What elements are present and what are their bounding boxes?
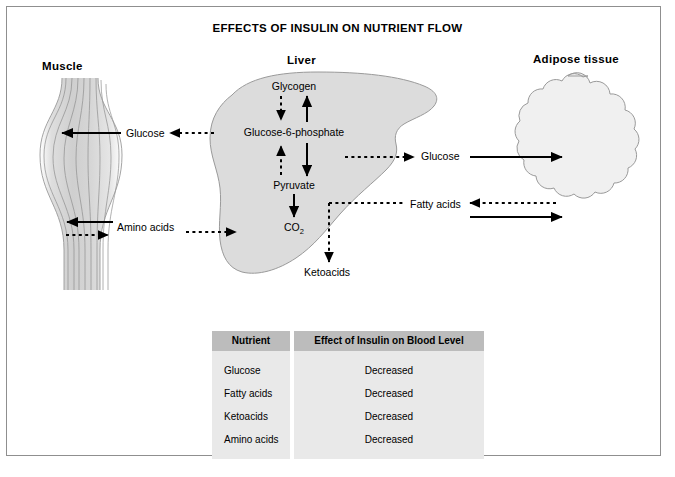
column-header-nutrient: Nutrient xyxy=(212,331,290,351)
cell-effect: Decreased xyxy=(294,359,484,382)
muscle-graphic xyxy=(40,78,122,290)
co2-subscript: 2 xyxy=(300,227,304,236)
spacer-right xyxy=(294,351,484,359)
flow-label-glucose-adipose: Glucose xyxy=(421,150,460,162)
table-row: Ketoacids Decreased xyxy=(212,405,484,428)
node-label-glucose-6-phosphate: Glucose-6-phosphate xyxy=(238,126,350,138)
node-label-glycogen: Glycogen xyxy=(262,80,326,92)
liver-label: Liver xyxy=(287,54,316,66)
table-header-row: Nutrient Effect of Insulin on Blood Leve… xyxy=(212,331,484,351)
table-row: Amino acids Decreased xyxy=(212,428,484,451)
flow-label-amino-acids: Amino acids xyxy=(117,221,174,233)
table-header: Nutrient Effect of Insulin on Blood Leve… xyxy=(212,331,484,351)
adipose-graphic xyxy=(515,73,639,198)
table-body: Glucose Decreased Fatty acids Decreased … xyxy=(212,351,484,459)
cell-effect: Decreased xyxy=(294,428,484,451)
cell-nutrient: Ketoacids xyxy=(212,405,290,428)
node-label-co2: CO2 xyxy=(272,221,316,236)
table-spacer-row xyxy=(212,351,484,359)
spacer-left xyxy=(212,451,290,459)
adipose-tissue-label: Adipose tissue xyxy=(533,53,619,65)
spacer-right xyxy=(294,451,484,459)
node-label-ketoacids: Ketoacids xyxy=(294,266,360,278)
flow-label-glucose-muscle: Glucose xyxy=(126,127,165,139)
liver-graphic xyxy=(210,72,437,273)
cell-nutrient: Glucose xyxy=(212,359,290,382)
cell-effect: Decreased xyxy=(294,405,484,428)
column-header-effect: Effect of Insulin on Blood Level xyxy=(294,331,484,351)
table-spacer-row-bottom xyxy=(212,451,484,459)
node-label-pyruvate: Pyruvate xyxy=(265,179,323,191)
muscle-label: Muscle xyxy=(42,60,83,72)
cell-nutrient: Amino acids xyxy=(212,428,290,451)
insulin-effects-table: Nutrient Effect of Insulin on Blood Leve… xyxy=(212,331,484,459)
cell-effect: Decreased xyxy=(294,382,484,405)
table-row: Fatty acids Decreased xyxy=(212,382,484,405)
figure-title: EFFECTS OF INSULIN ON NUTRIENT FLOW xyxy=(0,22,675,34)
spacer-left xyxy=(212,351,290,359)
co2-text: CO xyxy=(284,221,300,233)
table-row: Glucose Decreased xyxy=(212,359,484,382)
insulin-nutrient-flow-figure: EFFECTS OF INSULIN ON NUTRIENT FLOW Musc… xyxy=(0,0,675,477)
flow-label-fatty-acids: Fatty acids xyxy=(410,198,461,210)
cell-nutrient: Fatty acids xyxy=(212,382,290,405)
